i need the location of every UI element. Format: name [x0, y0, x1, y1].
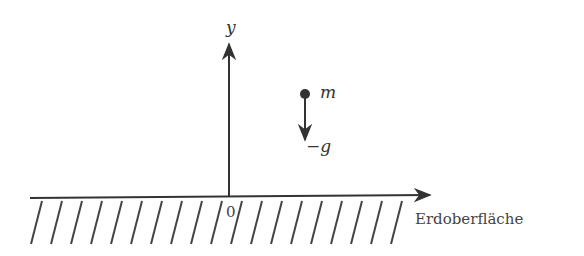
diagram-canvas: y m −g 0 Erdoberfläche [0, 0, 584, 256]
y-axis-label: y [225, 17, 236, 37]
mass-label: m [320, 82, 336, 102]
ground-hatching [31, 201, 402, 244]
origin-label: 0 [226, 203, 236, 221]
gravity-label: −g [306, 136, 331, 156]
surface-label: Erdoberfläche [415, 210, 523, 228]
